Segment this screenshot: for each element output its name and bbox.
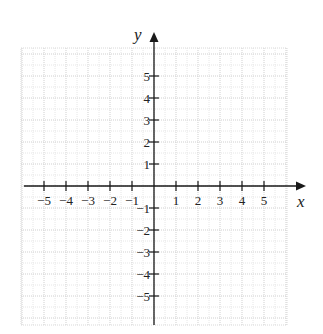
x-tick-label: 3 (217, 193, 224, 208)
y-tick-label: −2 (136, 223, 150, 238)
x-tick-label: 5 (261, 193, 268, 208)
x-tick-label: 1 (173, 193, 180, 208)
y-tick-label: −5 (136, 289, 150, 304)
x-tick-label: 2 (195, 193, 202, 208)
y-tick-label: 4 (144, 91, 151, 106)
x-tick-label: −3 (81, 193, 95, 208)
x-tick-label: 4 (239, 193, 246, 208)
coordinate-plane: −5−4−3−2−11234554321−1−2−3−4−5 x y (0, 0, 323, 334)
y-tick-label: 5 (144, 69, 151, 84)
y-axis-arrow-icon (150, 32, 159, 42)
y-tick-label: 2 (144, 135, 151, 150)
x-tick-label: −5 (37, 193, 51, 208)
y-tick-label: −3 (136, 245, 150, 260)
y-tick-label: 3 (144, 113, 151, 128)
y-tick-label: 1 (144, 157, 151, 172)
y-axis-label: y (132, 25, 142, 44)
x-tick-label: −4 (59, 193, 73, 208)
y-tick-label: −4 (136, 267, 150, 282)
x-axis-arrow-icon (296, 182, 306, 191)
y-tick-label: −1 (136, 201, 150, 216)
x-axis-label: x (296, 192, 305, 211)
x-tick-label: −2 (103, 193, 117, 208)
